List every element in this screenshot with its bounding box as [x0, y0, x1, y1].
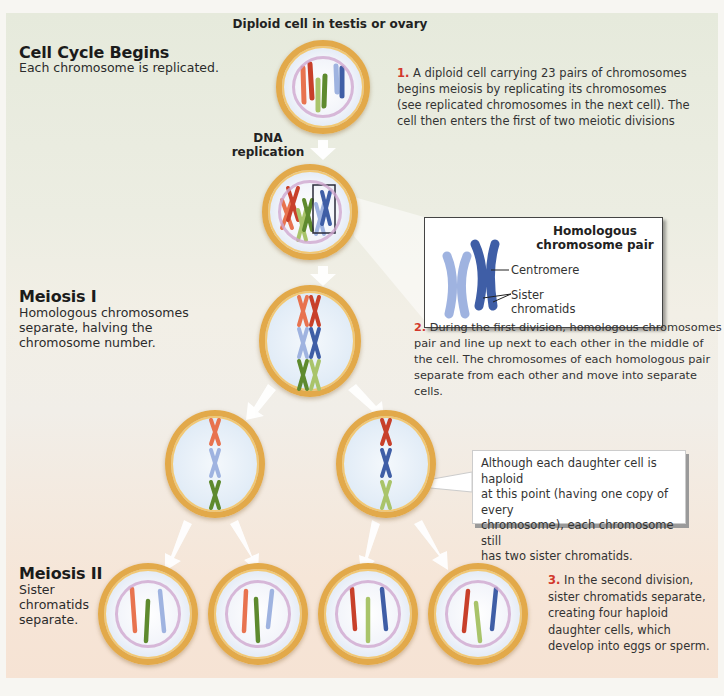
gamete-cell-3 [318, 563, 418, 665]
haploid-callout: Although each daughter cell is haploid a… [472, 450, 686, 524]
gamete-chromosomes-3 [324, 569, 412, 659]
meiosis-2-subtitle: Sister chromatids separate. [19, 582, 89, 627]
sister-label: Sister [511, 288, 544, 302]
replicated-chromosomes [268, 170, 352, 254]
step-3-number: 3. [548, 573, 560, 587]
diploid-cell-label: Diploid cell in testis or ovary [215, 17, 445, 31]
meiosis-1-title: Meiosis I [19, 287, 97, 306]
unreplicated-chromosomes [282, 46, 364, 128]
gamete-chromosomes-1 [104, 569, 192, 659]
daughter-cell-right [336, 410, 436, 518]
gamete-chromosomes-4 [434, 569, 522, 659]
step-2-text: 2. During the first division, homologous… [414, 320, 722, 400]
haploid-chromosomes-right [342, 416, 430, 512]
gamete-cell-1 [98, 563, 198, 665]
selection-box [313, 185, 335, 233]
haploid-chromosomes-left [171, 416, 259, 512]
gamete-chromosomes-2 [214, 569, 302, 659]
step-3-text: 3. In the second division, sister chroma… [548, 572, 718, 655]
homologous-pair-inset: Homologous chromosome pair Centromere Si… [424, 217, 663, 328]
cell-cycle-subtitle: Each chromosome is replicated. [19, 60, 219, 75]
centromere-label: Centromere [511, 263, 579, 277]
paired-homologs [265, 291, 355, 391]
dna-replication-label: DNA replication [228, 131, 308, 159]
meiosis-1-subtitle: Homologous chromosomes separate, halving… [19, 305, 189, 350]
gamete-cell-2 [208, 563, 308, 665]
replicated-cell [262, 164, 358, 260]
step-1-number: 1. [397, 66, 409, 80]
step-1-text: 1. A diploid cell carrying 23 pairs of c… [397, 65, 717, 129]
step-2-number: 2. [414, 321, 426, 334]
daughter-cell-left [165, 410, 265, 518]
meiosis-1-cell [259, 285, 361, 397]
gamete-cell-4 [428, 563, 528, 665]
diploid-cell [276, 40, 370, 134]
meiosis-2-title: Meiosis II [19, 564, 102, 583]
chromatids-label: chromatids [511, 302, 575, 316]
